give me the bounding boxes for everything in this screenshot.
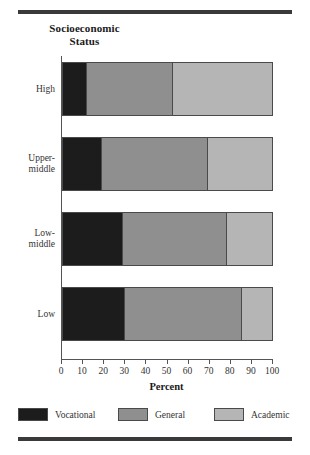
legend-swatch-vocational <box>18 408 48 421</box>
x-axis-tick <box>124 359 125 364</box>
legend-item-general: General <box>118 408 185 421</box>
chart-title-line-2: Status <box>22 35 147 48</box>
stacked-bar <box>62 287 273 341</box>
legend-item-vocational: Vocational <box>18 408 95 421</box>
legend-label: Vocational <box>55 410 95 420</box>
stacked-bar <box>62 212 273 266</box>
legend-label: Academic <box>251 410 290 420</box>
legend-label: General <box>155 410 185 420</box>
stacked-bar <box>62 62 273 116</box>
x-axis-tick <box>82 359 83 364</box>
legend-swatch-academic <box>214 408 244 421</box>
y-axis-label-line: High <box>0 84 55 95</box>
bar-segment-academic <box>207 138 272 190</box>
bar-row <box>62 62 273 116</box>
x-axis-tick <box>103 359 104 364</box>
plot-area <box>61 56 273 359</box>
chart-title: Socioeconomic Status <box>22 22 147 48</box>
bar-segment-academic <box>226 213 272 265</box>
bar-segment-general <box>124 288 241 340</box>
y-axis-label-high: High <box>0 84 55 95</box>
bar-segment-academic <box>241 288 272 340</box>
x-axis-tick <box>167 359 168 364</box>
y-axis-label-low-middle: Low-middle <box>0 228 55 250</box>
legend-swatch-general <box>118 408 148 421</box>
x-axis-tick <box>251 359 252 364</box>
chart-legend: VocationalGeneralAcademic <box>18 408 292 424</box>
x-axis-tick <box>188 359 189 364</box>
bar-segment-vocational <box>63 138 101 190</box>
x-axis-tick <box>230 359 231 364</box>
bar-segment-general <box>122 213 227 265</box>
legend-item-academic: Academic <box>214 408 290 421</box>
bar-segment-vocational <box>63 213 122 265</box>
bar-row <box>62 287 273 341</box>
x-axis-tick <box>209 359 210 364</box>
bar-segment-academic <box>172 63 272 115</box>
top-divider-rule <box>18 10 292 14</box>
x-axis-tick <box>61 359 62 364</box>
bottom-divider-rule <box>18 437 292 441</box>
y-axis-label-line: Low <box>0 309 55 320</box>
chart-title-line-1: Socioeconomic <box>49 22 119 34</box>
y-axis-label-line: middle <box>0 164 55 175</box>
bar-segment-vocational <box>63 288 124 340</box>
bar-row <box>62 212 273 266</box>
x-axis-tick <box>272 359 273 364</box>
x-axis-tick <box>145 359 146 364</box>
y-axis-label-upper-middle: Upper-middle <box>0 153 55 175</box>
bar-segment-vocational <box>63 63 86 115</box>
bar-segment-general <box>86 63 172 115</box>
bar-segment-general <box>101 138 208 190</box>
y-axis-label-line: Upper- <box>0 153 55 164</box>
bar-row <box>62 137 273 191</box>
x-axis-tick-label: 100 <box>259 366 285 376</box>
y-axis-label-line: middle <box>0 239 55 250</box>
x-axis-title: Percent <box>61 381 272 392</box>
y-axis-label-line: Low- <box>0 228 55 239</box>
stacked-bar <box>62 137 273 191</box>
y-axis-label-low: Low <box>0 309 55 320</box>
